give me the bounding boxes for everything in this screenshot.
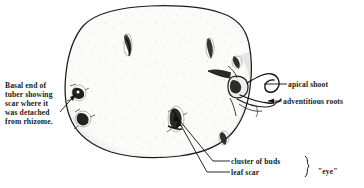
label-leaf-scar: leaf scar bbox=[231, 168, 259, 177]
label-cluster-of-buds: cluster of buds bbox=[231, 157, 280, 166]
tuber-illustration bbox=[0, 0, 364, 188]
eye-brace bbox=[305, 156, 309, 177]
label-eye: "eye" bbox=[318, 167, 338, 176]
label-apical-shoot: apical shoot bbox=[288, 80, 328, 89]
potato-tuber-figure: Basal end of tuber showing scar where it… bbox=[0, 0, 364, 188]
label-adventitious-roots: adventitious roots bbox=[283, 97, 343, 106]
label-basal-end: Basal end of tuber showing scar where it… bbox=[5, 81, 53, 126]
